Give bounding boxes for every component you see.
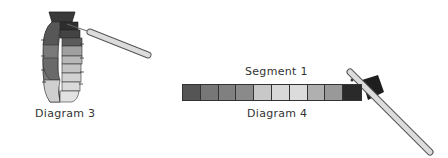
segment-cell [201, 85, 219, 100]
segment-cell [254, 85, 272, 100]
segment-cell [325, 85, 343, 100]
diagram-3-graphic [0, 0, 448, 158]
segment-cell [183, 85, 201, 100]
segment-bar [182, 84, 362, 101]
segment-cell [343, 85, 361, 100]
ring-icon [41, 12, 84, 102]
pen-icon [350, 72, 430, 152]
segment-cell [272, 85, 290, 100]
diagram-4-label: Diagram 4 [247, 107, 307, 120]
segment-cell [308, 85, 326, 100]
diagram-3-label: Diagram 3 [35, 107, 95, 120]
segment-label: Segment 1 [245, 65, 308, 78]
segment-cell [236, 85, 254, 100]
segment-cell [290, 85, 308, 100]
segment-cell [219, 85, 237, 100]
